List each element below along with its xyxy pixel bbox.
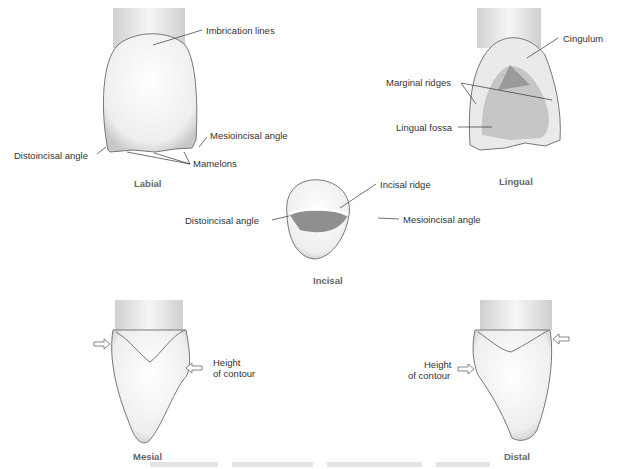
mesial-tooth xyxy=(94,300,202,443)
label-marginal-ridges: Marginal ridges xyxy=(386,77,451,88)
label-cingulum: Cingulum xyxy=(563,33,603,44)
label-height: Height xyxy=(213,357,240,368)
label-mamelons: Mamelons xyxy=(193,158,237,169)
label-distoincisal-angle: Distoincisal angle xyxy=(14,150,88,161)
tooth-illustrations xyxy=(0,0,623,469)
incisal-tooth xyxy=(272,180,399,259)
labial-tooth xyxy=(97,8,207,164)
title-labial: Labial xyxy=(134,178,161,189)
label-mesioincisal-angle-incisal: Mesioincisal angle xyxy=(403,214,481,225)
label-of-contour-distal: of contour xyxy=(408,370,450,381)
title-distal: Distal xyxy=(504,451,530,462)
label-height-distal: Height xyxy=(424,359,451,370)
label-of-contour: of contour xyxy=(213,368,255,379)
lingual-tooth xyxy=(458,8,560,150)
label-mesioincisal-angle: Mesioincisal angle xyxy=(210,130,288,141)
label-lingual-fossa: Lingual fossa xyxy=(396,122,452,133)
title-incisal: Incisal xyxy=(313,275,343,286)
distal-tooth xyxy=(458,300,569,440)
title-lingual: Lingual xyxy=(499,176,533,187)
label-incisal-ridge: Incisal ridge xyxy=(380,179,431,190)
label-imbrication-lines: Imbrication lines xyxy=(206,25,275,36)
figure-caption-cropped xyxy=(150,462,490,467)
label-distoincisal-angle-incisal: Distoincisal angle xyxy=(185,215,259,226)
title-mesial: Mesial xyxy=(133,451,162,462)
